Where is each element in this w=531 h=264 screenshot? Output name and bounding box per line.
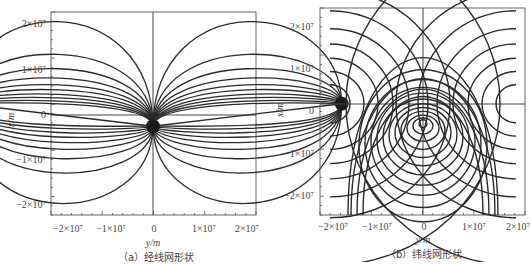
chart-b-xtick-label: 0 bbox=[422, 221, 427, 232]
chart-a: 2×10⁷ 1×10⁷ 0 −1×10⁷ −2×10⁷ −2×10⁷ −1×10… bbox=[0, 12, 349, 248]
chart-b-ytick-label: −1×10⁷ bbox=[284, 148, 314, 159]
meridian-curve bbox=[0, 104, 153, 138]
chart-a-caption: （a）经线网形状 bbox=[118, 249, 194, 264]
chart-b-xtick-label: 1×10⁷ bbox=[462, 221, 487, 232]
chart-a-ytick-label: −2×10⁷ bbox=[16, 199, 46, 210]
chart-a-ytick-label: 0 bbox=[41, 109, 46, 120]
chart-b-ytick-label: 0 bbox=[309, 105, 314, 116]
chart-a-ytick-label: 1×10⁷ bbox=[22, 64, 47, 75]
chart-b-y-axis-label: x/m bbox=[274, 103, 285, 118]
chart-a-xtick-label: 0 bbox=[152, 223, 157, 234]
chart-b-xtick-label: −1×10⁷ bbox=[362, 221, 392, 232]
chart-b-ytick-label: −2×10⁷ bbox=[284, 190, 314, 201]
chart-b-y-ticks bbox=[320, 8, 324, 215]
chart-a-xtick-label: −1×10⁷ bbox=[96, 223, 126, 234]
chart-b-xtick-label: 2×10⁷ bbox=[506, 221, 531, 232]
chart-b-caption: （b）纬线网形状 bbox=[386, 246, 462, 261]
chart-b-xtick-label: −2×10⁷ bbox=[318, 221, 348, 232]
chart-a-xtick-label: −2×10⁷ bbox=[53, 223, 83, 234]
chart-a-y-axis-label: x/m bbox=[5, 113, 16, 128]
chart-a-xtick-label: 1×10⁷ bbox=[192, 223, 217, 234]
chart-a-y-ticks bbox=[51, 12, 55, 215]
chart-b-ytick-label: 1×10⁷ bbox=[290, 63, 315, 74]
chart-a-xtick-label: 2×10⁷ bbox=[235, 223, 260, 234]
chart-a-ytick-label: −1×10⁷ bbox=[16, 154, 46, 165]
chart-a-ytick-label: 2×10⁷ bbox=[22, 18, 47, 29]
chart-a-x-axis-label: y/m bbox=[145, 237, 160, 248]
pole-convergence bbox=[146, 119, 160, 133]
chart-b-x-axis-label: y/m bbox=[415, 234, 430, 245]
chart-b-ytick-label: 2×10⁷ bbox=[290, 21, 315, 32]
chart-b: 2×10⁷ 1×10⁷ 0 −1×10⁷ −2×10⁷ −2×10⁷ −1×10… bbox=[274, 0, 531, 262]
